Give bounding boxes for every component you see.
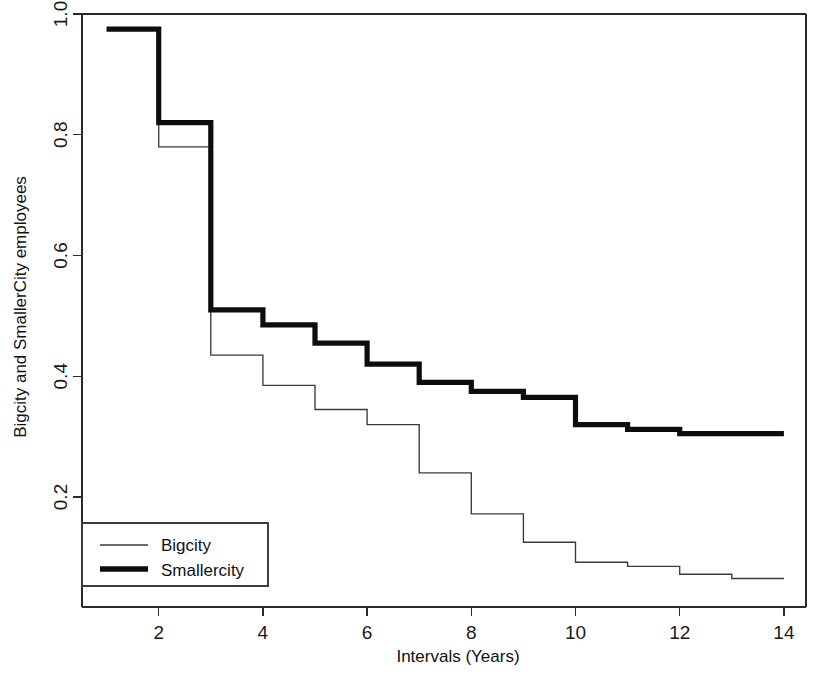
- x-tick-label: 10: [565, 622, 586, 643]
- legend-label-smallercity: Smallercity: [161, 561, 245, 580]
- x-axis-ticks: 2468101214: [153, 607, 794, 643]
- y-tick-label: 0.2: [50, 484, 71, 510]
- series-line-bigcity: [107, 29, 784, 578]
- y-axis-title: Bigcity and SmallerCity employees: [11, 176, 30, 438]
- x-axis-title: Intervals (Years): [396, 647, 519, 666]
- data-series-group: [107, 29, 784, 578]
- axis-frame: [82, 14, 806, 607]
- y-axis-ticks: 0.20.40.60.81.0: [50, 1, 82, 510]
- x-tick-label: 12: [669, 622, 690, 643]
- x-tick-label: 14: [773, 622, 795, 643]
- chart-container: 0.20.40.60.81.0 2468101214 Bigcity Small…: [0, 0, 815, 677]
- legend: Bigcity Smallercity: [82, 523, 268, 586]
- y-tick-label: 0.4: [50, 363, 71, 390]
- y-tick-label: 0.6: [50, 242, 71, 268]
- x-tick-label: 4: [258, 622, 269, 643]
- plot-frame: [82, 14, 806, 607]
- x-tick-label: 2: [153, 622, 164, 643]
- x-tick-label: 6: [362, 622, 373, 643]
- y-tick-label: 0.8: [50, 122, 71, 148]
- x-tick-label: 8: [466, 622, 477, 643]
- kaplan-meier-step-chart: 0.20.40.60.81.0 2468101214 Bigcity Small…: [0, 0, 815, 677]
- series-line-smallercity: [107, 29, 784, 434]
- y-tick-label: 1.0: [50, 1, 71, 27]
- legend-label-bigcity: Bigcity: [161, 536, 212, 555]
